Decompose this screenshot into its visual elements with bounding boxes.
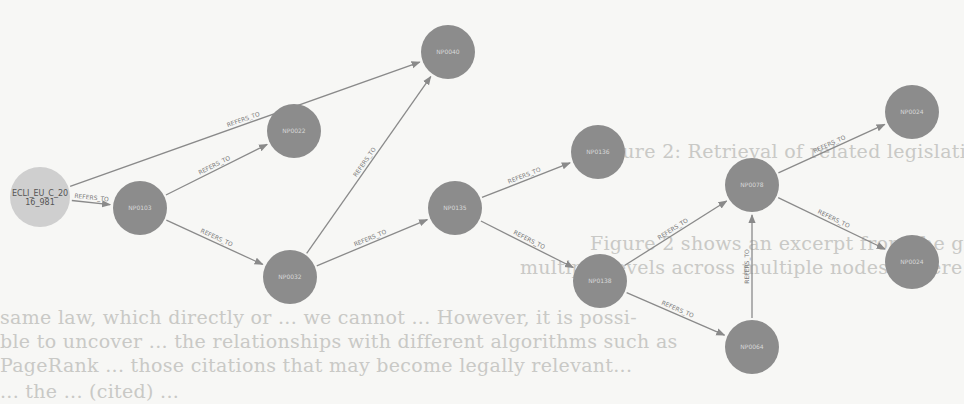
- edge-line: [778, 124, 884, 173]
- node-label: NP0032: [278, 273, 302, 280]
- edge-line: [307, 77, 431, 254]
- edge-n0032-n0135: REFERS_TO: [317, 220, 428, 266]
- citation-graph: REFERS_TOREFERS_TOREFERS_TOREFERS_TOREFE…: [0, 0, 964, 404]
- edge-n0103-n0022: REFERS_TO: [166, 144, 267, 195]
- node-n0135[interactable]: NP0135: [428, 181, 482, 235]
- node-label: NP0024: [900, 108, 924, 115]
- node-n0040[interactable]: NP0040: [421, 25, 475, 79]
- edge-label: REFERS_TO: [656, 216, 690, 241]
- edge-n0138-n0078: REFERS_TO: [625, 201, 727, 265]
- edge-line: [627, 293, 725, 336]
- node-n0103[interactable]: NP0103: [113, 181, 167, 235]
- edge-line: [166, 220, 262, 264]
- node-label: NP0064: [740, 343, 764, 350]
- edge-line: [317, 220, 428, 266]
- node-label: 16_981: [25, 198, 54, 207]
- edge-n0078-n0024b: REFERS_TO: [778, 198, 885, 249]
- edge-n0135-n0136: REFERS_TO: [482, 163, 570, 197]
- nodes-layer: ECLI_EU_C_2016_981NP0103NP0022NP0040NP00…: [10, 25, 939, 374]
- node-label: NP0024: [900, 258, 924, 265]
- edge-line: [482, 163, 570, 197]
- node-ecli[interactable]: ECLI_EU_C_2016_981: [10, 167, 70, 227]
- node-label: NP0138: [588, 277, 612, 284]
- node-n0024b[interactable]: NP0024: [885, 235, 939, 289]
- node-label: NP0040: [436, 48, 460, 55]
- node-label: NP0078: [740, 181, 764, 188]
- node-n0064[interactable]: NP0064: [725, 320, 779, 374]
- edge-ecli-n0103: REFERS_TO: [72, 192, 110, 205]
- node-n0136[interactable]: NP0136: [571, 125, 625, 179]
- edge-label: REFERS_TO: [226, 110, 262, 129]
- node-label: ECLI_EU_C_20: [12, 189, 68, 198]
- edge-line: [778, 198, 885, 249]
- edge-n0138-n0064: REFERS_TO: [627, 293, 725, 336]
- node-label: NP0022: [282, 127, 306, 134]
- edge-line: [481, 221, 573, 267]
- node-label: NP0136: [586, 148, 610, 155]
- edge-line: [625, 201, 727, 265]
- node-n0078[interactable]: NP0078: [725, 158, 779, 212]
- edge-n0103-n0032: REFERS_TO: [166, 220, 262, 264]
- node-n0138[interactable]: NP0138: [573, 254, 627, 308]
- node-n0032[interactable]: NP0032: [263, 250, 317, 304]
- edge-label: REFERS_TO: [743, 249, 751, 284]
- edge-n0135-n0138: REFERS_TO: [481, 221, 573, 267]
- node-n0024a[interactable]: NP0024: [885, 85, 939, 139]
- edge-n0078-n0024a: REFERS_TO: [778, 124, 884, 173]
- edge-n0032-n0040: REFERS_TO: [307, 77, 431, 254]
- node-n0022[interactable]: NP0022: [267, 104, 321, 158]
- edge-label: REFERS_TO: [351, 145, 378, 178]
- edge-line: [166, 144, 267, 195]
- node-label: NP0103: [128, 204, 152, 211]
- node-label: NP0135: [443, 204, 467, 211]
- edge-n0064-n0078: REFERS_TO: [743, 215, 752, 318]
